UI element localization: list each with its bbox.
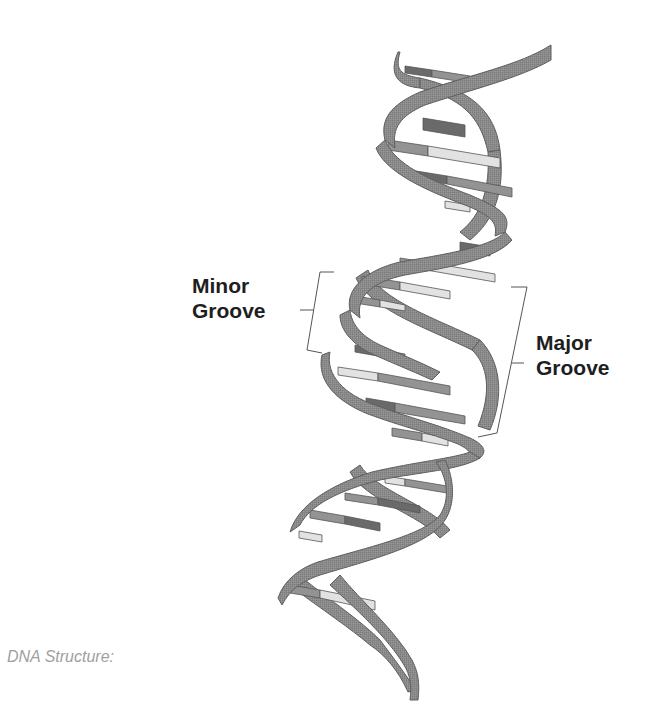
dna-diagram: Minor Groove Major Groove DNA Structure: [0, 0, 668, 709]
minor-groove-label: Minor Groove [192, 273, 266, 323]
minor-groove-bracket [300, 272, 334, 353]
major-groove-label: Major Groove [536, 330, 610, 380]
major-groove-label-line2: Groove [536, 355, 610, 380]
minor-groove-label-line2: Groove [192, 298, 266, 323]
base-pairs [290, 66, 512, 610]
minor-groove-label-line1: Minor [192, 273, 266, 298]
major-groove-label-line1: Major [536, 330, 610, 355]
figure-caption: DNA Structure: [7, 648, 114, 666]
